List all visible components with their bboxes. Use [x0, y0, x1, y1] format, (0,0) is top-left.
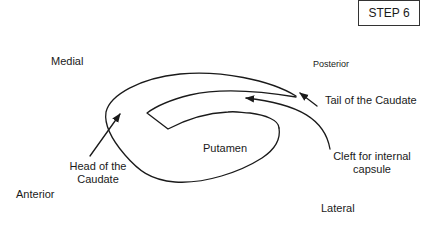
head-caudate-line2: Caudate	[68, 173, 128, 186]
caudate-outer-outline	[106, 73, 296, 182]
label-putamen: Putamen	[203, 142, 247, 155]
cleft-line1: Cleft for internal	[330, 150, 414, 163]
basal-ganglia-diagram	[0, 0, 446, 228]
label-head-caudate: Head of the Caudate	[68, 160, 128, 186]
label-tail-caudate: Tail of the Caudate	[325, 94, 417, 107]
label-anterior: Anterior	[16, 188, 55, 201]
head-caudate-line1: Head of the	[68, 160, 128, 173]
head-arrow	[90, 114, 120, 156]
cleft-line2: capsule	[330, 163, 414, 176]
caudate-inner-edge	[147, 91, 296, 129]
label-posterior: Posterior	[313, 58, 349, 71]
label-lateral: Lateral	[321, 202, 355, 215]
tail-arrow	[300, 93, 317, 106]
label-medial: Medial	[51, 55, 83, 68]
label-cleft: Cleft for internal capsule	[330, 150, 414, 176]
